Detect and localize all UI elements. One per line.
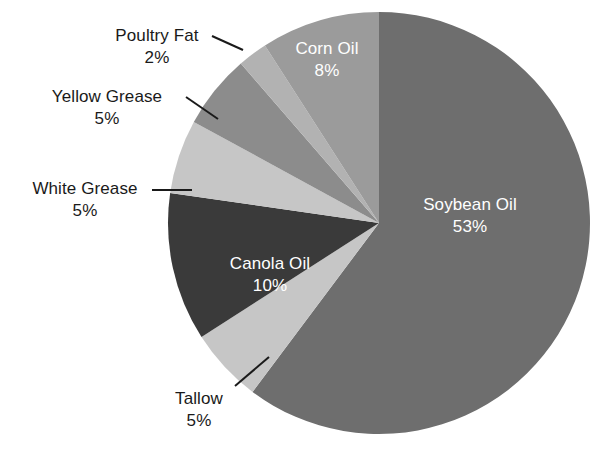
slice-label-value: 5% xyxy=(14,200,156,222)
slice-label-name: Corn Oil xyxy=(272,38,382,60)
slice-label-name: Canola Oil xyxy=(194,253,346,275)
slice-label-name: White Grease xyxy=(14,178,156,200)
slice-label-value: 5% xyxy=(146,410,252,432)
slice-label-name: Poultry Fat xyxy=(82,25,232,47)
slice-label-corn-oil: Corn Oil 8% xyxy=(272,38,382,82)
slice-label-value: 5% xyxy=(28,108,186,130)
slice-label-value: 10% xyxy=(194,275,346,297)
slice-label-name: Yellow Grease xyxy=(28,86,186,108)
slice-label-poultry-fat: Poultry Fat 2% xyxy=(82,25,232,69)
slice-label-value: 2% xyxy=(82,47,232,69)
slice-label-white-grease: White Grease 5% xyxy=(14,178,156,222)
pie-chart-figure: Corn Oil 8% Soybean Oil 53% Canola Oil 1… xyxy=(0,0,608,452)
slice-label-value: 8% xyxy=(272,60,382,82)
slice-label-soybean-oil: Soybean Oil 53% xyxy=(400,194,540,238)
slice-label-name: Tallow xyxy=(146,388,252,410)
slice-label-name: Soybean Oil xyxy=(400,194,540,216)
slice-label-yellow-grease: Yellow Grease 5% xyxy=(28,86,186,130)
slice-label-value: 53% xyxy=(400,216,540,238)
slice-label-canola-oil: Canola Oil 10% xyxy=(194,253,346,297)
slice-label-tallow: Tallow 5% xyxy=(146,388,252,432)
